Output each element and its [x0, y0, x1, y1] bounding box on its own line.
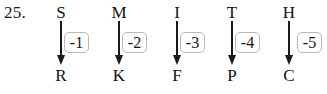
source-letter: H [280, 3, 298, 22]
arrow-shaft [231, 21, 233, 57]
shift-value-box: -1 [64, 32, 89, 53]
shift-value-box: -4 [235, 32, 260, 53]
target-letter: K [110, 66, 128, 85]
shift-value-label: -3 [186, 35, 199, 51]
target-letter: F [168, 66, 186, 85]
shift-value-label: -1 [70, 35, 83, 51]
mapping-column-5: H -5 C [280, 0, 327, 94]
shift-value-box: -5 [297, 32, 322, 53]
down-arrow-icon [118, 21, 120, 65]
down-arrow-icon [60, 21, 62, 65]
down-arrow-icon [231, 21, 233, 65]
arrow-shaft [288, 21, 290, 57]
arrow-head [115, 55, 123, 65]
arrow-head [228, 55, 236, 65]
arrow-shaft [176, 21, 178, 57]
source-letter: M [110, 3, 128, 22]
source-letter: T [223, 3, 241, 22]
mapping-row: S -1 R M -2 K I [0, 0, 327, 94]
target-letter: C [280, 66, 298, 85]
source-letter: S [52, 3, 70, 22]
target-letter: R [52, 66, 70, 85]
target-letter: P [223, 66, 241, 85]
arrow-shaft [60, 21, 62, 57]
arrow-shaft [118, 21, 120, 57]
shift-value-label: -2 [128, 35, 141, 51]
shift-value-label: -5 [303, 35, 316, 51]
source-letter: I [168, 3, 186, 22]
shift-value-box: -2 [122, 32, 147, 53]
arrow-head [285, 55, 293, 65]
question-diagram: 25. S -1 R M -2 K I [0, 0, 327, 94]
down-arrow-icon [288, 21, 290, 65]
down-arrow-icon [176, 21, 178, 65]
shift-value-label: -4 [241, 35, 254, 51]
arrow-head [173, 55, 181, 65]
shift-value-box: -3 [180, 32, 205, 53]
arrow-head [57, 55, 65, 65]
